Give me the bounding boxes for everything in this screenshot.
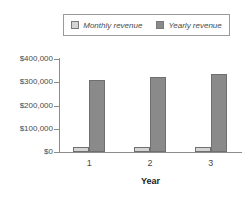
y-axis-tick-label: $300,000 — [1, 78, 53, 86]
x-axis-tick-label: 3 — [191, 158, 231, 168]
x-axis-tick-label: 1 — [69, 158, 109, 168]
legend-label-yearly-revenue: Yearly revenue — [168, 21, 221, 30]
x-axis-line — [59, 152, 242, 153]
y-axis-tick-label: $0 — [1, 148, 53, 156]
plot-area — [59, 59, 241, 152]
bar-yearly-revenue-year-1 — [89, 80, 105, 152]
bar-monthly-revenue-year-2 — [134, 147, 150, 152]
x-axis-tick-label: 2 — [130, 158, 170, 168]
bar-chart: Monthly revenue Yearly revenue $400,000$… — [0, 0, 247, 197]
bar-monthly-revenue-year-1 — [73, 147, 89, 152]
chart-legend: Monthly revenue Yearly revenue — [63, 14, 230, 36]
legend-item-monthly-revenue: Monthly revenue — [71, 21, 142, 30]
x-axis-title: Year — [59, 176, 242, 186]
legend-swatch-yearly-revenue — [156, 21, 164, 29]
y-axis-tick-label: $200,000 — [1, 102, 53, 110]
y-axis-tick — [54, 129, 59, 130]
bar-monthly-revenue-year-3 — [195, 147, 211, 152]
y-axis-tick — [54, 59, 59, 60]
legend-label-monthly-revenue: Monthly revenue — [83, 21, 142, 30]
y-axis-tick-label: $400,000 — [1, 55, 53, 63]
legend-item-yearly-revenue: Yearly revenue — [156, 21, 221, 30]
y-axis-tick — [54, 152, 59, 153]
y-axis-labels: $400,000$300,000$200,000$100,000$0 — [0, 0, 53, 197]
bar-yearly-revenue-year-2 — [150, 77, 166, 152]
y-axis-tick — [54, 106, 59, 107]
legend-swatch-monthly-revenue — [71, 21, 79, 29]
y-axis-tick — [54, 82, 59, 83]
y-axis-tick-label: $100,000 — [1, 125, 53, 133]
bar-yearly-revenue-year-3 — [211, 74, 227, 152]
